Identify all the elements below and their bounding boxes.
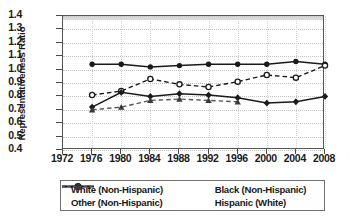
y-tick-mark <box>56 69 62 70</box>
legend-label-other: Other (Non-Hispanic) <box>71 197 162 208</box>
legend-item-black[interactable]: Black (Non-Hispanic) <box>211 184 324 195</box>
x-tick-mark <box>178 149 179 154</box>
legend-item-hispanic[interactable]: Hispanic (White) <box>211 197 324 208</box>
y-tick-label: 0.4 <box>0 142 22 154</box>
y-tick-label: 1.3 <box>0 21 22 33</box>
data-point-marker <box>148 64 153 69</box>
y-tick-label: 0.7 <box>0 102 22 114</box>
data-point-marker <box>235 62 240 67</box>
data-point-marker <box>264 100 270 107</box>
data-point-marker <box>119 62 124 67</box>
y-tick-mark <box>56 95 62 96</box>
x-tick-mark <box>149 149 150 154</box>
data-point-marker <box>264 72 269 77</box>
data-point-marker <box>148 76 153 81</box>
x-tick-mark <box>120 149 121 154</box>
y-tick-mark <box>56 55 62 56</box>
data-point-marker <box>322 63 327 68</box>
series-line <box>92 66 325 95</box>
data-point-marker <box>89 62 94 67</box>
data-point-marker <box>90 92 95 97</box>
data-point-marker <box>293 98 299 105</box>
legend-label-hispanic: Hispanic (White) <box>215 197 286 208</box>
series-line <box>92 99 238 110</box>
x-tick-mark <box>295 149 296 154</box>
y-tick-label: 0.6 <box>0 115 22 127</box>
series-hispanic-white <box>89 96 241 113</box>
gridline-vertical <box>325 16 326 148</box>
y-tick-mark <box>56 109 62 110</box>
chart-legend: White (Non-Hispanic) Black (Non-Hispanic… <box>60 180 325 211</box>
y-tick-label: 1.1 <box>0 48 22 60</box>
y-tick-label: 0.5 <box>0 129 22 141</box>
chart-container: Representativeness Ratio 0.40.50.60.70.8… <box>0 0 350 217</box>
y-tick-mark <box>56 82 62 83</box>
y-tick-mark <box>56 122 62 123</box>
dashed-filled-triangle-icon <box>61 181 95 192</box>
y-tick-label: 1.4 <box>0 8 22 20</box>
data-point-marker <box>206 84 211 89</box>
data-point-marker <box>177 63 182 68</box>
data-point-marker <box>206 62 211 67</box>
y-tick-label: 1.2 <box>0 35 22 47</box>
data-point-marker <box>293 75 298 80</box>
series-white-non-hispanic <box>89 59 327 70</box>
x-tick-mark <box>62 149 63 154</box>
x-tick-mark <box>208 149 209 154</box>
data-point-marker <box>235 79 240 84</box>
legend-row: White (Non-Hispanic) Black (Non-Hispanic… <box>61 183 324 196</box>
data-point-marker <box>177 82 182 87</box>
y-tick-label: 1.0 <box>0 62 22 74</box>
legend-label-black: Black (Non-Hispanic) <box>215 184 307 195</box>
data-point-marker <box>293 59 298 64</box>
data-point-marker <box>322 93 328 100</box>
data-point-marker <box>264 62 269 67</box>
y-tick-mark <box>56 28 62 29</box>
legend-row: Other (Non-Hispanic) Hispanic (White) <box>61 196 324 209</box>
y-tick-mark <box>56 15 62 16</box>
x-tick-mark <box>266 149 267 154</box>
plot-area <box>62 15 324 149</box>
x-tick-mark <box>91 149 92 154</box>
gridline-horizontal <box>63 150 323 151</box>
legend-item-other[interactable]: Other (Non-Hispanic) <box>61 197 211 208</box>
series-lines <box>63 16 325 150</box>
x-tick-mark <box>237 149 238 154</box>
y-tick-label: 0.8 <box>0 88 22 100</box>
y-tick-mark <box>56 136 62 137</box>
y-tick-label: 0.9 <box>0 75 22 87</box>
x-tick-mark <box>324 149 325 154</box>
y-tick-mark <box>56 42 62 43</box>
